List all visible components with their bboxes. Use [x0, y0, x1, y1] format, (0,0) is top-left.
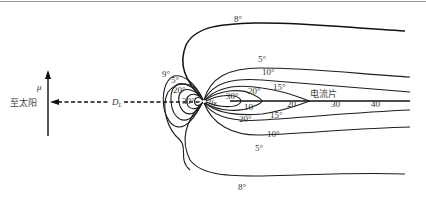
label-5deg-upper: 5°	[258, 54, 267, 64]
arrow-up-icon	[45, 70, 51, 79]
magnetosphere-contour-diagram: μ 至太阳 DL 电流片 10 20 30 40 uE 8° 8° 5° 10°…	[0, 0, 426, 204]
label-8deg-lower: 8°	[238, 182, 247, 192]
label-9deg-left: 9°	[162, 69, 171, 79]
mu-axis-label: μ	[36, 82, 42, 92]
label-5deg-left: 5°	[171, 75, 180, 85]
arrow-left-icon	[50, 99, 59, 105]
label-20deg-lower: 20°	[239, 114, 252, 124]
label-20deg-left: 20°	[173, 85, 186, 95]
label-15deg-upper: 15°	[273, 82, 286, 92]
mu-axis	[45, 70, 51, 136]
label-5deg-lower: 5°	[255, 143, 264, 153]
sun-direction-label: 至太阳	[10, 97, 37, 108]
label-10deg-upper: 10°	[262, 67, 275, 77]
current-sheet-label: 电流片	[310, 88, 337, 99]
label-8deg-upper: 8°	[234, 14, 243, 24]
sun-direction-line	[50, 99, 200, 105]
label-15deg-lower: 15°	[270, 110, 283, 120]
label-30deg-left: 30°	[182, 96, 195, 106]
tick-40: 40	[371, 99, 381, 109]
label-30deg-upper: 30°	[226, 91, 239, 101]
distance-label: DL	[111, 97, 123, 108]
label-20deg-upper: 20°	[248, 86, 261, 96]
tick-30: 30	[331, 99, 341, 109]
label-10deg-lower: 10°	[267, 129, 280, 139]
